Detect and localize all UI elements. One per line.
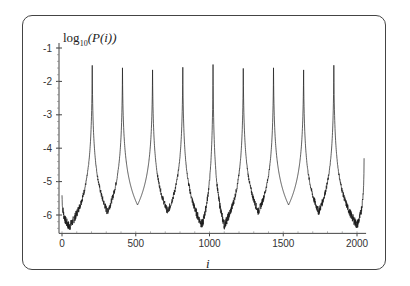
y-tick-label: -1	[43, 43, 52, 54]
y-tick-label: -2	[43, 76, 52, 87]
x-tick-label: 2000	[346, 238, 369, 249]
x-tick-label: 1500	[272, 238, 295, 249]
x-tick-label: 1000	[198, 238, 221, 249]
y-tick-label: -3	[43, 109, 52, 120]
y-tick-label: -6	[43, 210, 52, 221]
line-chart: -1-2-3-4-5-60500100015002000	[0, 0, 410, 286]
series-line	[62, 65, 364, 230]
y-axis-label: log10(P(i))	[63, 30, 117, 48]
log-probability-line	[62, 65, 364, 230]
x-axis-label: i	[206, 256, 210, 272]
y-tick-label: -5	[43, 176, 52, 187]
y-tick-label: -4	[43, 143, 52, 154]
x-tick-label: 500	[127, 238, 144, 249]
x-tick-label: 0	[59, 238, 65, 249]
